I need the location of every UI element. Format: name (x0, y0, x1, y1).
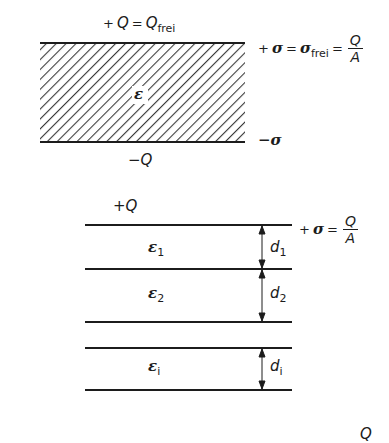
subscript: 2 (157, 292, 164, 305)
sigma-free-symbol: σ (300, 39, 311, 57)
layered-dielectric-capacitor (85, 225, 292, 390)
equals-sign: = (332, 41, 343, 56)
equals-sign: = (327, 222, 338, 237)
cropped-charge-fragment: Q (360, 427, 372, 442)
layer-2-permittivity: ε2 (148, 286, 164, 301)
epsilon-symbol: ε (148, 357, 157, 375)
bottom-surface-charge-label: −σ (258, 133, 282, 148)
plus-sign: + (299, 222, 310, 237)
layer-i-permittivity: εi (148, 359, 160, 374)
denominator: A (348, 49, 363, 65)
numerator: Q (343, 213, 358, 230)
fraction: QA (343, 213, 358, 246)
subscript: i (157, 365, 160, 378)
subscript: i (280, 365, 283, 378)
top-surface-charge-label: +σ=σfrei=QA (255, 32, 363, 65)
equals-sign: = (132, 16, 143, 31)
plus-sign: + (103, 16, 114, 31)
equals-sign: = (286, 41, 297, 56)
layered-surface-charge-label: +σ=QA (296, 213, 358, 246)
layer-1-permittivity: ε1 (148, 240, 164, 255)
thickness-symbol: d (270, 238, 280, 256)
epsilon-symbol: ε (148, 284, 157, 302)
subscript: frei (311, 47, 329, 60)
layer-i-thickness: di (270, 359, 283, 374)
subscript: 2 (280, 292, 287, 305)
sigma-symbol: σ (272, 39, 283, 57)
numerator: Q (348, 32, 363, 49)
denominator: A (343, 230, 358, 246)
top-charge-label: +Q=Qfrei (100, 16, 175, 31)
dielectric-label: ε (134, 87, 143, 102)
sigma-symbol: σ (313, 220, 324, 238)
thickness-symbol: d (270, 357, 280, 375)
subscript: 1 (280, 246, 287, 259)
thickness-symbol: d (270, 284, 280, 302)
epsilon-symbol: ε (148, 238, 157, 256)
plus-sign: + (258, 41, 269, 56)
layer-1-thickness: d1 (270, 240, 287, 255)
layer-2-thickness: d2 (270, 286, 287, 301)
layered-top-charge-label: +Q (113, 199, 137, 214)
thickness-arrows (259, 226, 265, 389)
bottom-charge-label: −Q (128, 153, 152, 168)
fraction: QA (348, 32, 363, 65)
subscript: 1 (157, 246, 164, 259)
subscript: frei (157, 22, 175, 35)
charge-symbol: Q (117, 14, 129, 32)
free-charge-symbol: Q (146, 14, 158, 32)
